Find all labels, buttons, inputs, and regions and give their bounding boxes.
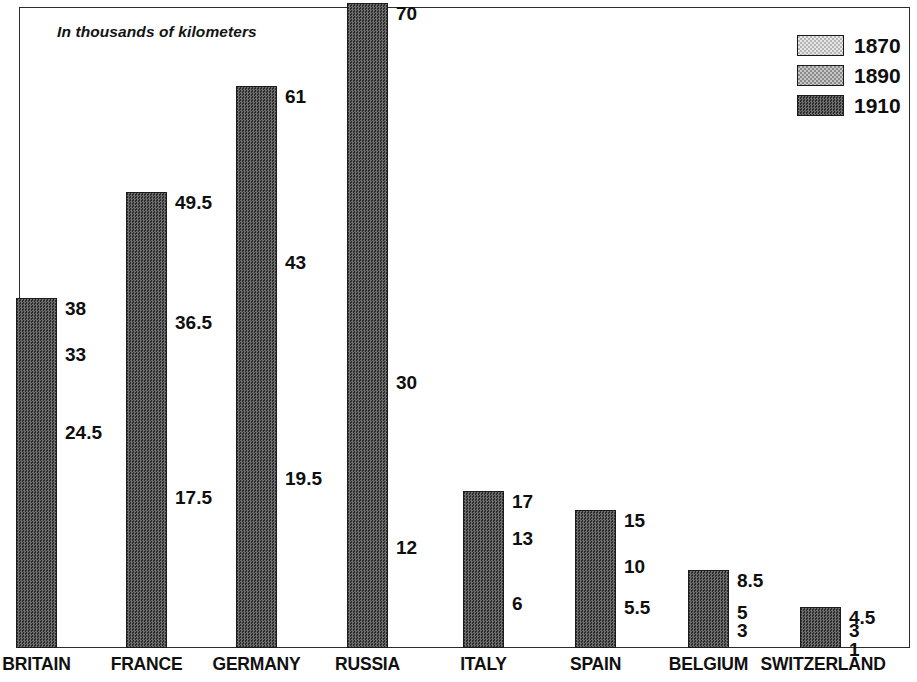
- bar-stack: [575, 0, 616, 648]
- chart-note: In thousands of kilometers: [57, 23, 257, 41]
- value-label-germany-1870: 19.5: [285, 469, 322, 488]
- legend-item-1870: 1870: [797, 33, 907, 57]
- bar-stack: [463, 0, 504, 648]
- bar-segment-1910: [688, 570, 729, 648]
- value-label-italy-1910: 17: [512, 492, 533, 511]
- category-label-germany: GERMANY: [197, 656, 317, 674]
- value-label-spain-1910: 15: [624, 511, 645, 530]
- bar-stack: [347, 0, 388, 648]
- value-label-britain-1910: 38: [65, 299, 86, 318]
- value-label-france-1910: 49.5: [175, 193, 212, 212]
- bar-stack: [126, 0, 167, 648]
- category-label-russia: RUSSIA: [308, 656, 428, 674]
- bar-segment-1910: [575, 510, 616, 648]
- value-label-switzerland-1910: 4.5: [849, 608, 875, 627]
- light-checker-swatch: [797, 35, 844, 56]
- category-label-france: FRANCE: [87, 656, 207, 674]
- chart-page: In thousands of kilometers 1870 1890 191…: [0, 0, 917, 682]
- bar-segment-1910: [463, 491, 504, 648]
- category-label-britain: BRITAIN: [0, 656, 97, 674]
- category-label-belgium: BELGIUM: [649, 656, 769, 674]
- value-label-france-1870: 17.5: [175, 488, 212, 507]
- value-label-britain-1890: 33: [65, 345, 86, 364]
- value-label-britain-1870: 24.5: [65, 423, 102, 442]
- legend-item-1890: 1890: [797, 63, 907, 87]
- bar-group-russia: [347, 0, 388, 648]
- plot-area: [0, 0, 917, 648]
- bar-segment-1910: [800, 607, 841, 648]
- value-label-spain-1890: 10: [624, 557, 645, 576]
- value-label-russia-1910: 70: [396, 4, 417, 23]
- bar-stack: [688, 0, 729, 648]
- value-label-spain-1870: 5.5: [624, 598, 650, 617]
- category-label-switzerland: SWITZERLAND: [761, 656, 881, 674]
- value-label-russia-1890: 30: [396, 373, 417, 392]
- bar-group-britain: [16, 0, 57, 648]
- medium-checker-swatch: [797, 65, 844, 86]
- legend-label-1910: 1910: [854, 95, 901, 116]
- bar-stack: [236, 0, 277, 648]
- legend-label-1870: 1870: [854, 35, 901, 56]
- legend-label-1890: 1890: [854, 65, 901, 86]
- bar-segment-1910: [16, 298, 57, 648]
- value-label-germany-1910: 61: [285, 87, 306, 106]
- value-label-russia-1870: 12: [396, 538, 417, 557]
- dark-checker-swatch: [797, 95, 844, 116]
- value-label-belgium-1910: 8.5: [737, 571, 763, 590]
- value-label-italy-1870: 6: [512, 594, 523, 613]
- bar-segment-1910: [126, 192, 167, 648]
- bar-stack: [16, 0, 57, 648]
- value-label-italy-1890: 13: [512, 529, 533, 548]
- bar-group-italy: [463, 0, 504, 648]
- value-label-germany-1890: 43: [285, 253, 306, 272]
- category-label-italy: ITALY: [424, 656, 544, 674]
- bar-segment-1910: [347, 3, 388, 648]
- bar-group-spain: [575, 0, 616, 648]
- value-label-belgium-1870: 3: [737, 621, 748, 640]
- value-label-belgium-1890: 5: [737, 603, 748, 622]
- bar-group-germany: [236, 0, 277, 648]
- bar-group-france: [126, 0, 167, 648]
- legend-item-1910: 1910: [797, 93, 907, 117]
- value-label-france-1890: 36.5: [175, 313, 212, 332]
- category-label-spain: SPAIN: [536, 656, 656, 674]
- bar-segment-1910: [236, 86, 277, 648]
- chart-legend: 1870 1890 1910: [797, 33, 907, 123]
- bar-group-belgium: [688, 0, 729, 648]
